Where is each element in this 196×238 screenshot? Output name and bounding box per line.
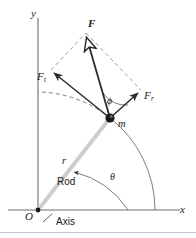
phi-label: ϕ xyxy=(107,96,112,106)
radius-label: r xyxy=(62,156,66,167)
rod-centerline xyxy=(38,118,110,210)
trajectory-arc-dashed xyxy=(38,92,110,118)
force-resultant-label: F xyxy=(88,18,95,29)
force-resultant-vector xyxy=(87,39,110,118)
force-tangential-base: F xyxy=(37,70,44,82)
origin-label: O xyxy=(25,211,33,222)
theta-label: θ xyxy=(110,172,115,182)
physics-figure: y x O Axis F Ft Fr m ϕ θ r Rod xyxy=(0,0,196,238)
theta-arc xyxy=(74,172,128,210)
force-radial-label: Fr xyxy=(144,90,154,101)
force-tangential-subscript: t xyxy=(44,76,46,84)
axis-callout-label: Axis xyxy=(56,217,75,227)
origin-point xyxy=(36,208,41,213)
force-tangential-label: Ft xyxy=(37,71,46,82)
force-radial-base: F xyxy=(144,89,151,101)
mass-label: m xyxy=(118,119,126,130)
mass-point xyxy=(105,113,114,122)
y-axis-label: y xyxy=(31,8,36,19)
axis-callout-leader xyxy=(43,214,52,222)
force-tangential-vector xyxy=(54,73,110,118)
mass-point-highlight xyxy=(110,115,113,118)
parallelogram-edge-upper-left xyxy=(51,33,86,70)
force-radial-subscript: r xyxy=(151,95,154,103)
force-radial-vector xyxy=(110,93,138,118)
figure-canvas xyxy=(0,0,196,238)
x-axis-label: x xyxy=(180,204,185,215)
rod-label: Rod xyxy=(57,177,75,187)
